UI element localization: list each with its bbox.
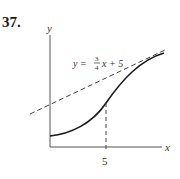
- y-axis-label: y: [46, 22, 52, 34]
- x-tick-label-5: 5: [102, 155, 108, 167]
- slope-denominator: 4: [95, 64, 99, 72]
- tangent-equation: y = 3 4 x + 5: [72, 55, 123, 72]
- x-axis-label: x: [164, 141, 170, 153]
- equation-prefix: y =: [72, 58, 87, 69]
- tangent-diagram: y x 5 y = 3 4 x + 5: [0, 0, 180, 179]
- equation-suffix: x + 5: [101, 58, 123, 69]
- slope-numerator: 3: [95, 55, 99, 63]
